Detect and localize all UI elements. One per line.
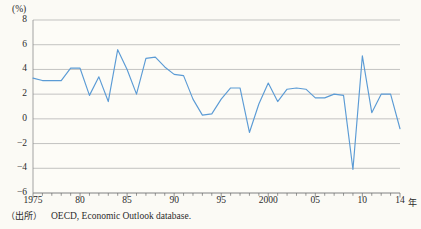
x-tick-label-2014: 14 (395, 195, 405, 205)
x-axis-year-unit: 年 (408, 196, 417, 209)
x-tick-label-1985: 85 (122, 195, 132, 205)
y-tick-label--4: −4 (5, 162, 27, 172)
x-tick-label-1975: 1975 (24, 195, 43, 205)
x-tick-label-2000: 2000 (259, 195, 278, 205)
y-tick-label-6: 6 (5, 39, 27, 49)
x-tick-label-2010: 10 (358, 195, 368, 205)
source-note: （出所）OECD, Economic Outlook database. (6, 209, 191, 222)
y-tick-label-4: 4 (5, 63, 27, 73)
x-tick-label-1995: 95 (216, 195, 226, 205)
source-text: OECD, Economic Outlook database. (51, 211, 191, 221)
x-tick-label-2005: 05 (311, 195, 321, 205)
y-tick-label-2: 2 (5, 88, 27, 98)
x-tick-label-1980: 80 (75, 195, 85, 205)
x-tick-label-1990: 90 (169, 195, 179, 205)
y-tick-label-0: 0 (5, 113, 27, 123)
figure-container: (%) 86420−2−4−6 1975808590952000051014 年… (0, 0, 421, 229)
y-tick-label-8: 8 (5, 14, 27, 24)
source-prefix: （出所） (6, 211, 42, 221)
y-tick-label--2: −2 (5, 138, 27, 148)
